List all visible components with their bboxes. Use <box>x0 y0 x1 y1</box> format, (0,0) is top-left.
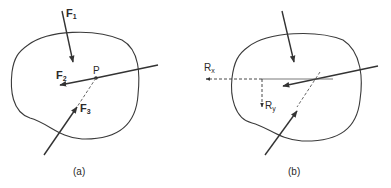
force-f2-arrow <box>283 66 378 86</box>
label-ry: Ry <box>265 101 276 112</box>
label-f2: F2 <box>56 70 67 82</box>
label-rx: Rx <box>204 63 215 74</box>
force-f3-extension-dashed <box>297 72 320 107</box>
caption-b: (b) <box>288 167 300 177</box>
label-f2-sub: 2 <box>63 75 67 82</box>
force-f2-line-of-action <box>96 65 158 78</box>
label-f3-base: F <box>80 102 87 114</box>
caption-a: (a) <box>73 167 85 177</box>
force-f3-arrow <box>265 111 297 155</box>
label-f2-base: F <box>56 69 63 81</box>
force-diagram <box>0 0 391 188</box>
label-f1-base: F <box>66 7 73 19</box>
label-rx-sub: x <box>211 67 215 74</box>
force-f3-arrow <box>44 107 77 155</box>
label-f1: F1 <box>66 8 77 20</box>
rigid-body-outline <box>232 34 362 142</box>
panel-b <box>206 11 378 155</box>
rigid-body-outline <box>11 32 138 139</box>
label-f3-sub: 3 <box>87 108 91 115</box>
label-f3: F3 <box>80 103 91 115</box>
label-ry-sub: y <box>272 105 276 112</box>
force-f1-arrow <box>282 11 294 62</box>
label-point-p: P <box>93 66 100 76</box>
label-f1-sub: 1 <box>73 13 77 20</box>
panel-a <box>11 11 158 155</box>
